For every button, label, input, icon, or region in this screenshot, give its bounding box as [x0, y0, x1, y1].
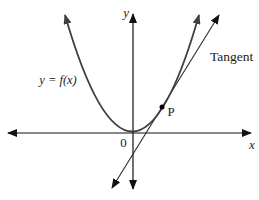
curve-label: y = f(x)	[37, 73, 77, 87]
function-tangent-diagram: y x 0 y = f(x) P Tangent	[0, 0, 259, 200]
x-axis-label: x	[248, 137, 255, 152]
origin-label: 0	[120, 135, 127, 150]
y-axis-label: y	[121, 5, 129, 20]
diagram-canvas: y x 0 y = f(x) P Tangent	[0, 0, 259, 200]
tangent-label: Tangent	[210, 49, 254, 64]
parabola-curve	[65, 15, 199, 132]
point-p-label: P	[167, 104, 174, 119]
point-p-marker	[160, 105, 165, 110]
